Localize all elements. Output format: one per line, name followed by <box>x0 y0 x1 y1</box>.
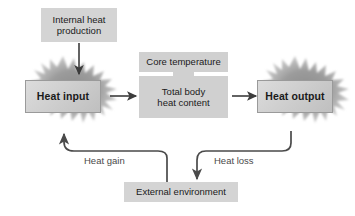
core-temperature-label: Core temperature <box>146 56 220 67</box>
edge-label-heat-loss: Heat loss <box>214 155 254 166</box>
internal-heat-line-1: Internal heat <box>53 14 106 25</box>
node-heat-input[interactable]: Heat input <box>25 80 101 113</box>
external-environment-label: External environment <box>136 186 226 197</box>
diagram-canvas: Internal heat production Heat input Core… <box>0 0 355 216</box>
node-internal-heat-production[interactable]: Internal heat production <box>41 8 117 42</box>
edge-label-heat-gain: Heat gain <box>84 155 125 166</box>
heat-input-label: Heat input <box>37 90 89 102</box>
node-core-temperature[interactable]: Core temperature <box>139 52 228 72</box>
total-body-line-1: Total body <box>162 86 205 97</box>
node-external-environment[interactable]: External environment <box>124 182 238 202</box>
node-heat-output[interactable]: Heat output <box>257 80 333 113</box>
total-body-line-2: heat content <box>157 97 209 108</box>
internal-heat-line-2: production <box>57 25 101 36</box>
heat-output-label: Heat output <box>265 90 324 102</box>
node-total-body-heat-content[interactable]: Total body heat content <box>139 76 228 118</box>
